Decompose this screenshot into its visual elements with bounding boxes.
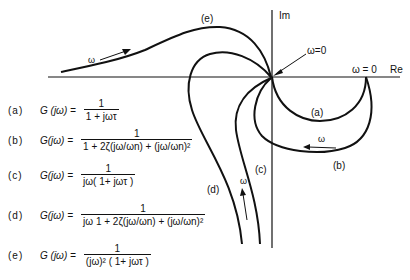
equation-c-fraction: 1 jω( 1+ jωτ ) [81,163,135,187]
omega-arrow-b [308,147,336,148]
equation-d: (d) G(jω) = 1 jω 1 + 2ζ(jω/ωn) + (jω/ωn)… [8,203,205,227]
equation-d-lhs: G(jω) = [40,210,73,221]
equation-b-fraction: 1 1 + 2ζ(jω/ωn) + (jω/ωn)² [81,128,192,152]
equation-a-numerator: 1 [96,98,106,109]
omega-label-b: ω [318,135,325,144]
im-axis-label: Im [279,11,290,21]
equation-b-lhs: G(jω) = [40,135,73,146]
omega-arrow-d [243,194,247,220]
equation-d-tag: (d) [8,210,40,221]
omega-label-d: ω [240,177,247,186]
equation-c-tag: (c) [8,170,40,181]
equation-a-fraction: 1 1 + jωτ [84,98,119,122]
omega-zero-origin-label: ω=0 [307,46,326,56]
equation-c-lhs: G(jω) = [40,170,73,181]
omega-label-e: ω [88,56,95,65]
equation-b: (b) G(jω) = 1 1 + 2ζ(jω/ωn) + (jω/ωn)² [8,128,192,152]
equation-b-tag: (b) [8,135,40,146]
equation-d-denominator: jω 1 + 2ζ(jω/ωn) + (jω/ωn)² [81,214,205,227]
equation-c-numerator: 1 [103,163,113,174]
curve-c [236,78,271,244]
omega-zero-real-label: ω = 0 [352,65,377,75]
equation-e-denominator: (jω)² ( 1+ jωτ ) [84,254,151,267]
equation-a: (a) G (jω) = 1 1 + jωτ [8,98,119,122]
equation-a-denominator: 1 + jωτ [84,109,119,122]
equation-c-denominator: jω( 1+ jωτ ) [81,174,135,187]
equation-e-tag: (e) [8,250,40,261]
equation-b-denominator: 1 + 2ζ(jω/ωn) + (jω/ωn)² [81,139,192,152]
equation-e: (e) G (jω) = 1 (jω)² ( 1+ jωτ ) [8,243,151,267]
curve-d-label: (d) [207,185,219,195]
curve-e-label: (e) [201,14,213,24]
omega-arrowhead-b [303,144,310,150]
curve-b-label: (b) [333,161,345,171]
curve-c-label: (c) [255,165,267,175]
equation-c: (c) G(jω) = 1 jω( 1+ jωτ ) [8,163,135,187]
equation-e-fraction: 1 (jω)² ( 1+ jωτ ) [84,243,151,267]
omega-zero-arrowhead [273,69,283,76]
equation-a-tag: (a) [8,105,40,116]
equation-e-lhs: G (jω) = [40,250,76,261]
omega-arrowhead-d [240,188,246,196]
equation-d-fraction: 1 jω 1 + 2ζ(jω/ωn) + (jω/ωn)² [81,203,205,227]
equation-e-numerator: 1 [113,243,123,254]
curve-a-label: (a) [311,108,323,118]
equation-a-lhs: G (jω) = [40,105,76,116]
re-axis-label: Re [390,65,403,75]
equation-b-numerator: 1 [132,128,142,139]
curve-e [61,27,271,77]
equation-d-numerator: 1 [138,203,148,214]
